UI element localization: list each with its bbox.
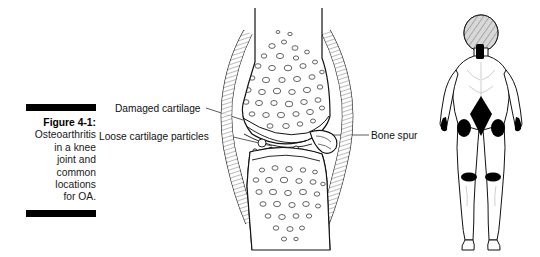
oa-marker-left-hip bbox=[457, 119, 471, 137]
oa-marker-right-knee bbox=[485, 172, 501, 181]
oa-marker-neck bbox=[476, 44, 484, 59]
tibia bbox=[247, 147, 330, 250]
knee-joint-illustration bbox=[221, 8, 353, 250]
illustration-layer bbox=[0, 0, 540, 257]
oa-marker-left-knee bbox=[461, 172, 477, 181]
bone-spur bbox=[310, 130, 337, 153]
figure-page: Figure 4-1: Osteoarthritis in a knee joi… bbox=[0, 0, 540, 257]
posterior-body-figure bbox=[440, 13, 522, 250]
oa-marker-right-hip bbox=[491, 119, 505, 137]
